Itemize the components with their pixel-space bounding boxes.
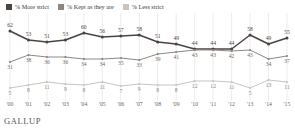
data-point	[267, 43, 270, 46]
data-point-label: 12	[210, 83, 216, 89]
data-point-label: 57	[118, 27, 124, 33]
data-point-label: 56	[100, 28, 106, 34]
data-point-label: 53	[63, 31, 69, 37]
x-tick-label: '14	[265, 101, 272, 107]
data-point-label: 34	[100, 61, 106, 67]
data-point-label: 60	[81, 24, 87, 30]
x-tick-label: '00	[7, 101, 14, 107]
data-point-label: 41	[173, 54, 179, 60]
data-point-label: 12	[192, 83, 198, 89]
data-point-label: 43	[210, 52, 216, 58]
data-point-label: 5	[9, 90, 12, 96]
x-tick-label: '07	[136, 101, 143, 107]
chart-legend: % More strict % Kept as they are % Less …	[6, 2, 164, 13]
legend-swatch-icon	[6, 4, 12, 10]
data-point-label: 8	[82, 87, 85, 93]
legend-label: % More strict	[15, 4, 49, 10]
x-tick-label: '13	[247, 101, 254, 107]
x-tick-label: '02	[44, 101, 51, 107]
data-point-label: 38	[26, 57, 32, 63]
x-tick-label: '04	[80, 101, 87, 107]
data-point-label: 53	[26, 31, 32, 37]
x-tick-label: '09	[173, 101, 180, 107]
gallup-logo: GALLUP	[4, 116, 41, 126]
data-point-label: 8	[156, 87, 159, 93]
x-tick-label: '05	[99, 101, 106, 107]
legend-item-kept-as-they-are: % Kept as they are	[58, 4, 114, 10]
data-point-label: 36	[63, 59, 69, 65]
data-point-label: 5	[249, 90, 252, 96]
data-point-label: 44	[192, 40, 198, 46]
data-point	[156, 41, 159, 44]
gallup-line-chart: % More strict % Kept as they are % Less …	[0, 0, 295, 132]
x-tick-label: '06	[117, 101, 124, 107]
data-point-label: 58	[136, 26, 142, 32]
x-tick-label: '12	[228, 101, 235, 107]
x-tick-label: '10	[191, 101, 198, 107]
data-point	[119, 35, 122, 38]
x-tick-label: '03	[62, 101, 69, 107]
x-axis-tick-labels: '00'01'02'03'04'05'06'07'08'09'10'11'12'…	[0, 101, 295, 113]
data-point	[138, 34, 141, 37]
legend-label: % Less strict	[132, 4, 164, 10]
data-point-label: 9	[64, 86, 67, 92]
data-point-label: 42	[229, 53, 235, 59]
data-point	[27, 39, 30, 42]
chart-plot-area: 6253515360565758514944444458495531383636…	[0, 13, 295, 101]
data-point-label: 49	[173, 35, 179, 41]
x-tick-label: '11	[210, 101, 217, 107]
data-point-label: 37	[284, 58, 290, 64]
data-point	[64, 39, 67, 42]
x-tick-label: '15	[284, 101, 291, 107]
chart-svg: 6253515360565758514944444458495531383636…	[0, 13, 295, 101]
data-point-label: 36	[44, 59, 50, 65]
data-point-label: 62	[7, 22, 13, 28]
x-tick-label: '08	[154, 101, 161, 107]
data-point	[101, 36, 104, 39]
data-point-label: 13	[266, 82, 272, 88]
series-line	[10, 31, 287, 49]
data-point	[45, 41, 48, 44]
data-point-label: 34	[81, 61, 87, 67]
data-point-label: 51	[155, 33, 161, 39]
data-point-label: 44	[229, 40, 235, 46]
legend-swatch-icon	[123, 4, 129, 10]
data-point-label: 8	[175, 87, 178, 93]
data-point	[82, 32, 85, 35]
data-point-label: 43	[247, 52, 253, 58]
series-line	[10, 50, 287, 62]
data-point	[9, 30, 12, 33]
legend-item-more-strict: % More strict	[6, 4, 49, 10]
data-point-label: 51	[44, 33, 50, 39]
data-point-label: 11	[229, 84, 235, 90]
data-point-label: 9	[138, 86, 141, 92]
x-tick-label: '01	[25, 101, 32, 107]
series-line	[10, 80, 287, 88]
data-point-label: 39	[155, 56, 161, 62]
data-point-label: 44	[210, 40, 216, 46]
legend-item-less-strict: % Less strict	[123, 4, 164, 10]
data-point-label: 35	[118, 60, 124, 66]
data-point-label: 11	[284, 84, 290, 90]
data-point-label: 49	[266, 35, 272, 41]
data-point-label: 11	[44, 84, 50, 90]
data-point	[249, 34, 252, 37]
data-point-label: 8	[27, 87, 30, 93]
data-point	[175, 43, 178, 46]
data-point-label: 43	[192, 52, 198, 58]
data-point	[286, 37, 289, 40]
legend-label: % Kept as they are	[67, 4, 114, 10]
data-point-label: 11	[100, 84, 106, 90]
data-point-label: 7	[119, 88, 122, 94]
data-point-label: 55	[284, 29, 290, 35]
data-point-label: 34	[266, 61, 272, 67]
data-point-label: 33	[136, 62, 142, 68]
data-point-label: 58	[247, 26, 253, 32]
data-point-label: 31	[7, 64, 13, 70]
legend-swatch-icon	[58, 4, 64, 10]
